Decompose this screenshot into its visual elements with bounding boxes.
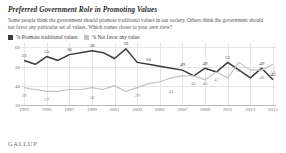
data-label: 52 bbox=[225, 54, 230, 59]
y-axis-tick: 40 bbox=[15, 83, 20, 88]
data-label: 59 bbox=[123, 41, 128, 46]
x-axis-tick: 1999 bbox=[87, 107, 97, 112]
x-axis-tick: 2003 bbox=[132, 107, 142, 112]
x-axis-tick: 2001 bbox=[110, 107, 120, 112]
x-axis-tick: 2009 bbox=[200, 107, 210, 112]
data-label: 52 bbox=[237, 67, 242, 72]
legend-item-not-favor: % Not favor any value bbox=[84, 34, 140, 40]
data-label: 39 bbox=[135, 92, 140, 97]
data-label: 55 bbox=[44, 48, 49, 53]
legend-label-promote: % Promote traditional values bbox=[16, 34, 78, 40]
gallup-logo: GALLUP bbox=[8, 140, 37, 147]
data-label: 47 bbox=[214, 77, 219, 82]
data-label: 50 bbox=[146, 56, 151, 61]
data-label: 38 bbox=[89, 94, 94, 99]
data-label: 45 bbox=[203, 81, 208, 86]
chart-question-text: Some people think the government should … bbox=[8, 17, 270, 32]
chart-card: Preferred Government Role in Promoting V… bbox=[0, 0, 286, 153]
chart-legend: % Promote traditional values % Not favor… bbox=[8, 34, 278, 40]
x-axis-tick: 2011 bbox=[223, 107, 233, 112]
line-promote-traditional bbox=[24, 49, 273, 80]
data-label: 49 bbox=[203, 60, 208, 65]
data-label: 45 bbox=[191, 81, 196, 86]
x-axis-tick: 2007 bbox=[177, 107, 187, 112]
x-axis: 1993199519971999200120032005200720092011… bbox=[21, 107, 276, 117]
data-label: 49 bbox=[180, 62, 185, 67]
data-label: 58 bbox=[89, 43, 94, 48]
x-axis-tick: 2015 bbox=[268, 107, 278, 112]
chart-title: Preferred Government Role in Promoting V… bbox=[8, 6, 278, 15]
series-lines bbox=[21, 43, 276, 105]
x-axis-tick: 1997 bbox=[64, 107, 74, 112]
data-label: 51 bbox=[271, 69, 276, 74]
legend-item-promote: % Promote traditional values bbox=[8, 34, 78, 40]
legend-swatch-promote bbox=[8, 35, 13, 40]
data-label: 41 bbox=[169, 89, 174, 94]
legend-label-not-favor: % Not favor any value bbox=[92, 34, 140, 40]
y-axis-tick: 60 bbox=[15, 45, 20, 50]
data-label: 39 bbox=[22, 92, 27, 97]
data-label: 49 bbox=[259, 60, 264, 65]
y-axis: 30405060 bbox=[8, 43, 21, 105]
legend-swatch-not-favor bbox=[84, 35, 89, 40]
data-label: 56 bbox=[67, 46, 72, 51]
x-axis-line bbox=[21, 105, 276, 106]
x-axis-tick: 1995 bbox=[42, 107, 52, 112]
x-axis-tick: 2013 bbox=[245, 107, 255, 112]
data-label: 37 bbox=[44, 96, 49, 101]
y-axis-tick: 50 bbox=[15, 64, 20, 69]
x-axis-tick: 2005 bbox=[155, 107, 165, 112]
data-label: 53 bbox=[22, 52, 27, 57]
plot-area: 30405060 1993199519971999200120032005200… bbox=[8, 43, 276, 117]
data-label: 48 bbox=[259, 75, 264, 80]
x-axis-tick: 1993 bbox=[19, 107, 29, 112]
